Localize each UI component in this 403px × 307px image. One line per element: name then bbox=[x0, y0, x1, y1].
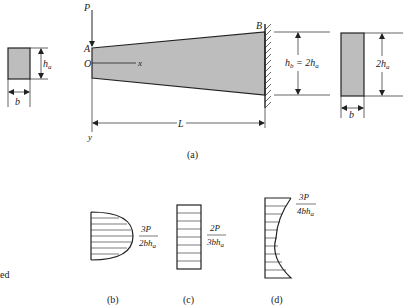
numerator: 3P bbox=[298, 192, 310, 202]
caption-b: (b) bbox=[107, 294, 119, 306]
stress-distribution-d: 3P 4bha (d) bbox=[265, 192, 316, 306]
denominator: 3bha bbox=[206, 237, 225, 249]
caption-a: (a) bbox=[187, 149, 198, 161]
denominator: 4bha bbox=[297, 206, 315, 218]
height-label: 2ha bbox=[376, 58, 390, 71]
left-cross-section: ha b bbox=[8, 48, 52, 107]
caption-d: (d) bbox=[271, 294, 283, 306]
height-label: ha bbox=[43, 58, 52, 71]
width-label: b bbox=[349, 109, 354, 120]
y-axis-label: y bbox=[87, 132, 92, 142]
origin-label: O bbox=[84, 58, 91, 69]
beam-body bbox=[92, 32, 265, 95]
fixed-end-height-label: hb = 2ha bbox=[285, 57, 319, 70]
stress-distribution-c: 2P 3bha (c) bbox=[177, 205, 226, 306]
numerator: 2P bbox=[210, 223, 221, 233]
caption-c: (c) bbox=[183, 294, 194, 306]
x-axis-label: x bbox=[137, 58, 142, 68]
section-rect bbox=[341, 33, 364, 96]
width-label: b bbox=[15, 96, 20, 107]
stress-distribution-b: 3P 2bha (b) bbox=[91, 212, 158, 306]
point-b-label: B bbox=[256, 20, 262, 31]
tapered-beam: y x O A P B L bbox=[83, 2, 330, 142]
tapered-beam-figure: ha b y x O A P bbox=[0, 0, 403, 307]
numerator: 3P bbox=[140, 224, 152, 234]
right-cross-section: 2ha b bbox=[341, 33, 403, 120]
length-label: L bbox=[177, 118, 184, 129]
section-rect bbox=[8, 48, 30, 79]
wall-hatching bbox=[265, 24, 271, 108]
point-a-label: A bbox=[83, 43, 91, 54]
margin-text: ed bbox=[0, 269, 9, 280]
denominator: 2bha bbox=[139, 238, 157, 250]
load-label: P bbox=[83, 2, 90, 13]
